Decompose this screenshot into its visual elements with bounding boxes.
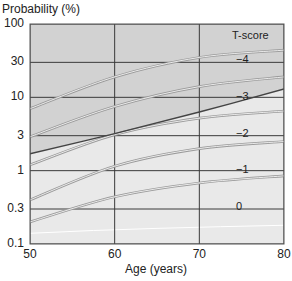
y-tick-label: 30 — [0, 54, 24, 68]
t-score-label: −1 — [236, 163, 249, 175]
y-tick-label: 3 — [0, 128, 24, 142]
y-tick-label: 1 — [0, 163, 24, 177]
x-axis-title: Age (years) — [0, 262, 292, 276]
x-tick-label: 50 — [15, 247, 45, 261]
y-tick-label: 100 — [0, 16, 24, 30]
y-tick-label: 10 — [0, 89, 24, 103]
t-score-label: −4 — [236, 53, 249, 65]
x-tick-label: 60 — [100, 247, 130, 261]
t-score-label: 0 — [236, 200, 242, 212]
y-tick-label: 0.3 — [0, 201, 24, 215]
x-tick-label: 80 — [269, 247, 292, 261]
chart-svg — [0, 0, 292, 281]
t-score-label: −2 — [236, 127, 249, 139]
t-score-label: −3 — [236, 90, 249, 102]
x-tick-label: 70 — [184, 247, 214, 261]
y-axis-title: Probability (%) — [2, 2, 80, 16]
legend-title: T-score — [232, 29, 269, 41]
